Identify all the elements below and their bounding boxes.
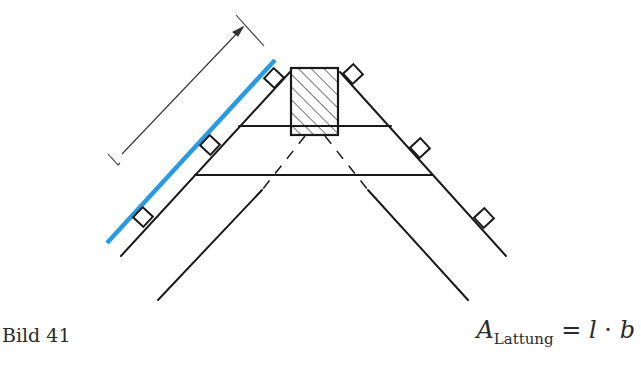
dimension-line	[108, 15, 264, 165]
formula-length: l	[589, 316, 597, 344]
formula-equals: =	[561, 316, 581, 344]
highlighted-batten-surface	[107, 60, 275, 243]
left-outer-rafter	[121, 72, 290, 256]
formula-subscript: Lattung	[494, 330, 554, 348]
area-formula: ALattung = l · b	[476, 316, 635, 348]
right-outer-rafter	[340, 72, 506, 256]
formula-symbol: A	[476, 316, 493, 344]
right-inner-rafter	[368, 190, 468, 300]
roof-ridge-diagram	[0, 0, 641, 368]
ridge-purlin	[291, 68, 338, 135]
hidden-lines	[262, 136, 368, 190]
left-inner-rafter	[158, 190, 262, 300]
batten-right-top	[343, 64, 363, 84]
formula-operator: ·	[604, 316, 612, 344]
figure-caption: Bild 41	[2, 324, 71, 346]
formula-width: b	[620, 316, 635, 344]
batten-right-mid	[410, 138, 430, 158]
